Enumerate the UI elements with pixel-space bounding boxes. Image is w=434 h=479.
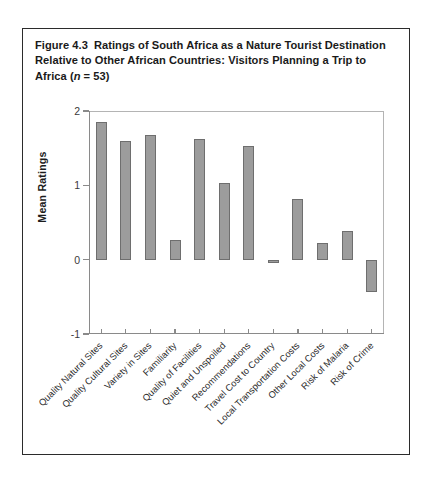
x-tick-mark	[224, 329, 225, 334]
y-tick-mark	[83, 333, 89, 334]
x-axis-spine	[89, 333, 384, 334]
y-tick-mark	[83, 259, 89, 260]
bar	[268, 260, 279, 264]
figure-container: Figure 4.3Ratings of South Africa as a N…	[22, 28, 410, 455]
y-tick-label: -1	[40, 328, 80, 340]
x-tick-mark	[150, 329, 151, 334]
y-tick-mark	[83, 185, 89, 186]
x-tick-mark	[347, 329, 348, 334]
bar	[145, 135, 156, 260]
x-tick-mark	[101, 329, 102, 334]
bar	[292, 199, 303, 260]
plot-area	[89, 111, 384, 334]
bar	[96, 122, 107, 260]
y-tick-label: 1	[40, 179, 80, 191]
x-tick-mark	[297, 329, 298, 334]
figure-number: Figure 4.3	[35, 39, 88, 51]
x-tick-mark	[125, 329, 126, 334]
x-tick-mark	[371, 329, 372, 334]
bar	[342, 231, 353, 259]
bar	[120, 141, 131, 260]
x-tick-mark	[174, 329, 175, 334]
x-tick-mark	[273, 329, 274, 334]
x-tick-mark	[248, 329, 249, 334]
y-tick-label: 0	[40, 254, 80, 266]
figure-caption-text-part2: = 53)	[80, 70, 109, 82]
bar	[243, 146, 254, 260]
figure-caption: Figure 4.3Ratings of South Africa as a N…	[35, 38, 393, 84]
bar	[219, 183, 230, 260]
bar	[366, 260, 377, 292]
y-tick-mark	[83, 110, 89, 111]
bar	[170, 240, 181, 260]
x-tick-mark	[199, 329, 200, 334]
bar	[194, 139, 205, 259]
y-axis-spine	[89, 111, 90, 334]
y-tick-label: 2	[40, 105, 80, 117]
x-tick-mark	[322, 329, 323, 334]
bar	[317, 243, 328, 259]
